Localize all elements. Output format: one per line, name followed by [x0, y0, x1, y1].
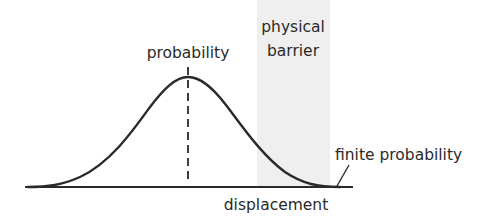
finite-probability-label: finite probability — [335, 146, 462, 164]
peak-probability-label: probability — [147, 44, 230, 62]
barrier-label-line2: barrier — [267, 42, 320, 60]
tail-leader-line — [337, 165, 349, 186]
tunneling-diagram: probability physical barrier displacemen… — [0, 0, 493, 224]
barrier-label-line1: physical — [261, 18, 325, 36]
displacement-axis-label: displacement — [224, 196, 328, 214]
